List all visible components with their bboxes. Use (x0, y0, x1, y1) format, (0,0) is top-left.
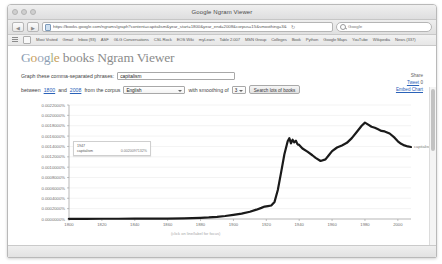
x-tick-label: 1860 (163, 222, 173, 227)
x-tick-label: 1800 (64, 222, 74, 227)
window-title: Google Ngram Viewer (8, 5, 436, 19)
address-bar[interactable]: https://books.google.com/ngrams/graph?co… (42, 22, 333, 32)
y-tick-label: 0.0012000% (41, 154, 65, 159)
tooltip-value: 0.0020097132% (121, 149, 147, 154)
bookmark-item[interactable]: Colleges (271, 36, 287, 44)
y-tick-label: 0.0018000% (41, 123, 65, 128)
tweet-count: 0 (420, 80, 423, 85)
scrollbar-thumb[interactable] (431, 89, 435, 151)
bookmark-item[interactable]: YouTube (352, 36, 368, 44)
chart-y-axis: 0.0022000%0.0020000%0.0018000%0.0016000%… (41, 103, 69, 222)
forward-button[interactable]: ▶ (27, 22, 39, 32)
close-icon[interactable] (12, 9, 18, 15)
bookmark-item[interactable]: GLG Conversations (114, 36, 149, 44)
corpus-value: English (126, 88, 141, 93)
tweet-button[interactable]: Tweet (407, 79, 419, 86)
sidebar-toggle-icon[interactable] (12, 37, 18, 43)
bookmarks-bar: Most Visited Gmail Inbox (93) ASF GLG Co… (8, 35, 436, 46)
phrase-input[interactable]: capitalism (117, 72, 235, 80)
chart-gridlines (69, 105, 411, 209)
bookmark-item[interactable]: myLearn (199, 36, 215, 44)
y-tick-label: 0.0000000% (41, 217, 65, 222)
chevron-down-icon (178, 90, 182, 92)
page-content: Google books Ngram Viewer Graph these co… (8, 46, 436, 257)
series-line-capitalism[interactable] (69, 123, 411, 219)
window-titlebar: Google Ngram Viewer (8, 5, 436, 20)
x-tick-label: 1980 (360, 222, 370, 227)
search-button[interactable]: Search lots of books (249, 85, 301, 94)
page-scrollbar[interactable] (429, 87, 436, 257)
bookmark-item[interactable]: Book (292, 36, 301, 44)
bookmark-item[interactable]: News (337) (395, 36, 415, 44)
and-label: and (58, 87, 67, 93)
minimize-icon[interactable] (21, 9, 27, 15)
options-row: between 1800 and 2008 from the corpus En… (21, 85, 381, 94)
embed-chart-link[interactable]: Embed Chart (396, 86, 423, 93)
search-box[interactable]: Google (336, 22, 432, 32)
smoothing-select[interactable]: 3 (232, 86, 246, 94)
bookmark-item[interactable]: Table 2.007 (219, 36, 240, 44)
search-icon (340, 24, 346, 30)
bookmark-item[interactable]: EOS Wiki (177, 36, 194, 44)
tooltip-series: capitalism (77, 149, 93, 154)
share-label: Share (377, 72, 423, 79)
logo-suffix: books Ngram Viewer (60, 50, 175, 65)
smoothing-label: with smoothing of (188, 87, 228, 93)
between-label: between (21, 87, 41, 93)
bookmark-item[interactable]: Wikipedia (373, 36, 390, 44)
bookmark-item[interactable]: Google Maps (323, 36, 347, 44)
year-end-field[interactable]: 2008 (70, 87, 82, 93)
share-rail: Share Tweet 0 Embed Chart (377, 72, 423, 93)
corpus-label: from the corpus (84, 87, 120, 93)
bookmark-item[interactable]: Gmail (63, 36, 73, 44)
bookmark-item[interactable]: Most Visited (36, 36, 58, 44)
reload-icon[interactable]: ↻ (289, 24, 295, 30)
logo-letter: G (21, 50, 31, 65)
y-tick-label: 0.0006000% (41, 186, 65, 191)
chart-tooltip: 1947 capitalism0.0020097132% (73, 141, 151, 156)
year-start-field[interactable]: 1800 (44, 87, 56, 93)
bookmark-item[interactable]: ASF (101, 36, 109, 44)
x-tick-label: 1940 (295, 222, 305, 227)
browser-toolbar: ◀ ▶ https://books.google.com/ngrams/grap… (8, 20, 436, 35)
bookmark-item[interactable]: Inbox (93) (78, 36, 96, 44)
x-tick-label: 1920 (262, 222, 272, 227)
x-tick-label: 1820 (97, 222, 107, 227)
chart-svg[interactable]: 0.0022000%0.0020000%0.0018000%0.0016000%… (21, 101, 417, 241)
browser-window: Google Ngram Viewer ◀ ▶ https://books.go… (7, 4, 437, 258)
x-tick-label: 1840 (130, 222, 140, 227)
embed-row[interactable]: Embed Chart (377, 86, 423, 93)
ngram-chart[interactable]: 0.0022000%0.0020000%0.0018000%0.0016000%… (21, 101, 417, 241)
chart-x-caption: (click on line/label for focus) (171, 231, 220, 236)
y-tick-label: 0.0004000% (41, 196, 65, 201)
apps-grid-icon[interactable] (23, 36, 31, 44)
chart-x-axis: 1800182018401860188019001920194019601980… (64, 219, 403, 227)
ngram-query-form: Graph these comma-separated phrases: cap… (21, 72, 381, 99)
window-controls[interactable] (12, 9, 36, 15)
url-text: https://books.google.com/ngrams/graph?co… (53, 23, 287, 31)
zoom-icon[interactable] (30, 9, 36, 15)
y-tick-label: 0.0022000% (41, 103, 65, 108)
bookmark-item[interactable]: CSL Rock (154, 36, 172, 44)
smoothing-value: 3 (235, 88, 238, 93)
chevron-down-icon (239, 90, 243, 92)
x-tick-label: 1960 (327, 222, 337, 227)
x-tick-label: 1880 (196, 222, 206, 227)
bookmark-item[interactable]: MSN Group (245, 36, 266, 44)
back-button[interactable]: ◀ (12, 22, 24, 32)
x-tick-label: 1900 (229, 222, 239, 227)
phrase-row: Graph these comma-separated phrases: cap… (21, 72, 381, 80)
lock-icon (45, 24, 51, 31)
tweet-row[interactable]: Tweet 0 (377, 79, 423, 86)
bookmark-item[interactable]: Python (306, 36, 318, 44)
y-tick-label: 0.0014000% (41, 144, 65, 149)
y-tick-label: 0.0020000% (41, 113, 65, 118)
y-tick-label: 0.0016000% (41, 134, 65, 139)
page-title: Google books Ngram Viewer (21, 50, 174, 66)
y-tick-label: 0.0002000% (41, 206, 65, 211)
x-tick-label: 2000 (393, 222, 403, 227)
y-tick-label: 0.0010000% (41, 165, 65, 170)
corpus-select[interactable]: English (123, 86, 185, 94)
graph-label: Graph these comma-separated phrases: (21, 73, 114, 79)
window-statusbar (8, 245, 436, 257)
